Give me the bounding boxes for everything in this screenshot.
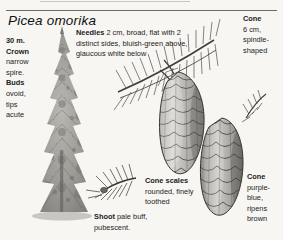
label-crown: 30 m. Crown narrow spire. Buds ovoid, ti… xyxy=(6,36,40,121)
label-needles: Needles 2 cm, broad, flat with 2 distinc… xyxy=(76,28,191,60)
crown-height: 30 m. xyxy=(6,36,25,45)
cone-scales-heading: Cone scales xyxy=(145,176,188,185)
label-cone-colour: Cone purple-blue, ripens brown xyxy=(247,172,283,225)
buds-line-1: ovoid, xyxy=(6,89,26,98)
header-rule xyxy=(6,10,277,11)
shoot-heading: Shoot xyxy=(94,212,115,221)
crown-line-1: narrow xyxy=(6,57,29,66)
cone-size-body: 6 cm, spindle-shaped xyxy=(243,25,269,55)
crown-line-2: spire. xyxy=(6,68,24,77)
header-hairline xyxy=(40,1,190,2)
label-cone-size: Cone 6 cm, spindle-shaped xyxy=(243,14,283,56)
shoot-detail-art xyxy=(86,164,136,200)
needles-heading: Needles xyxy=(76,28,104,37)
label-cone-scales: Cone scales rounded, finely toothed xyxy=(145,176,211,208)
needle-spray-art xyxy=(242,90,266,122)
field-guide-page: Picea omorika xyxy=(0,0,283,240)
cone-colour-body: purple-blue, ripens brown xyxy=(247,183,270,224)
cone-size-heading: Cone xyxy=(243,14,261,23)
cone-scales-body: rounded, finely toothed xyxy=(145,187,193,207)
buds-line-3: acute xyxy=(6,110,24,119)
crown-heading: Crown xyxy=(6,47,29,56)
buds-line-2: tips xyxy=(6,100,18,109)
buds-heading: Buds xyxy=(6,78,24,87)
cone-colour-heading: Cone xyxy=(247,172,265,181)
cone-upper-art xyxy=(150,60,218,184)
label-shoot: Shoot pale buff, pubescent. xyxy=(94,212,174,233)
page-title: Picea omorika xyxy=(8,13,96,28)
